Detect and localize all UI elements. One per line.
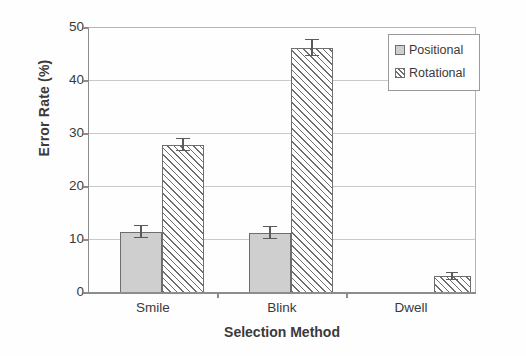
y-axis-title: Error Rate (%) (36, 18, 52, 198)
errorbar-cap-top (305, 39, 319, 40)
legend-label-positional: Positional (409, 43, 463, 57)
errorbar-dwell-rotational (446, 272, 458, 280)
errorbar-smile-rotational (176, 138, 190, 151)
errorbar-cap-bottom (305, 55, 319, 56)
x-axis-title: Selection Method (88, 324, 476, 340)
errorbar-cap-bottom (446, 279, 458, 280)
x-tick-label-smile: Smile (98, 300, 208, 315)
bar-blink-rotational (291, 48, 333, 293)
gridline-20 (89, 186, 475, 187)
bar-smile-rotational (162, 145, 204, 293)
errorbar-cap-bottom (176, 150, 190, 151)
errorbar-cap-bottom (263, 238, 277, 239)
y-tick-label-30: 30 (44, 125, 84, 140)
bar-smile-positional (120, 232, 162, 294)
y-tick-label-0: 0 (44, 284, 84, 299)
errorbar-blink-rotational (305, 39, 319, 56)
y-tick-label-20: 20 (44, 178, 84, 193)
errorbar-smile-positional (134, 225, 148, 238)
x-tick-label-blink: Blink (227, 300, 337, 315)
x-tick-label-dwell: Dwell (356, 300, 466, 315)
errorbar-cap-top (263, 226, 277, 227)
errorbar-cap-top (446, 272, 458, 273)
gridline-30 (89, 133, 475, 134)
errorbar-cap-top (134, 225, 148, 226)
y-tick-label-10: 10 (44, 231, 84, 246)
x-tick-mark-1 (217, 292, 219, 298)
errorbar-cap-bottom (134, 237, 148, 238)
errorbar-blink-positional (263, 226, 277, 239)
bar-chart: Error Rate (%) 50 40 30 20 10 0 (0, 0, 526, 356)
legend-label-rotational: Rotational (409, 66, 465, 80)
legend-item-positional: Positional (395, 43, 463, 57)
legend-swatch-positional-icon (395, 45, 405, 55)
y-tick-label-40: 40 (44, 72, 84, 87)
errorbar-stem (311, 39, 312, 56)
legend: Positional Rotational (388, 34, 480, 91)
x-axis-line (88, 292, 476, 294)
bar-blink-positional (249, 233, 291, 293)
x-tick-mark-2 (346, 292, 348, 298)
errorbar-cap-top (176, 138, 190, 139)
legend-item-rotational: Rotational (395, 66, 465, 80)
legend-swatch-rotational-icon (395, 68, 405, 78)
y-tick-label-50: 50 (44, 19, 84, 34)
